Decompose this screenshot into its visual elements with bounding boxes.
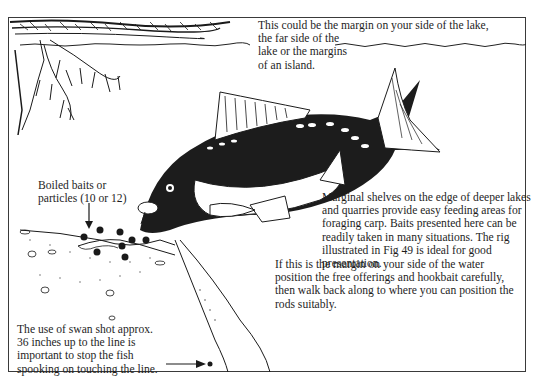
annotation-baits: Boiled baits or particles (10 or 12) [38,179,158,205]
annotation-top: This could be the margin on your side of… [258,19,528,72]
annotation-margin: If this is the margin on your side of th… [275,258,525,311]
pebbles [20,230,165,320]
bed-stippling [29,239,216,321]
baits-arrow-icon [85,203,93,229]
tree-overhang-icon [10,20,230,135]
annotation-swan-shot: The use of swan shot approx. 36 inches u… [17,323,217,376]
fishing-line [78,240,175,255]
